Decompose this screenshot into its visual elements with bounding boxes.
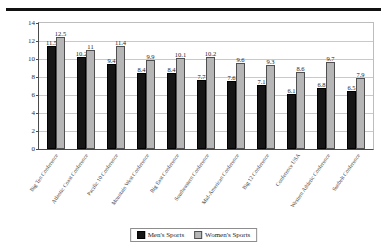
- x-axis-label-slot: Big 12 Conference: [251, 152, 281, 232]
- x-axis-label-slot: Western Athletic Conference: [312, 152, 342, 232]
- y-axis-tick-label: 14: [28, 20, 35, 27]
- bar-value-label: 7.7: [197, 74, 205, 81]
- y-axis-tick-mark: [36, 149, 39, 150]
- bar-value-label: 8.4: [167, 67, 175, 74]
- legend-swatch-womens-sports: [194, 231, 202, 239]
- bar-group: 9.411.4: [101, 23, 131, 149]
- bar-womens-sports: 10.1: [176, 58, 185, 149]
- x-axis-label-slot: Sunbelt Conference: [342, 152, 372, 232]
- bar-value-label: 11: [87, 44, 93, 51]
- bar-womens-sports: 9.6: [236, 63, 245, 149]
- bar-mens-sports: 9.4: [107, 64, 116, 149]
- bar-group: 7.69.6: [221, 23, 251, 149]
- bar-value-label: 7.9: [356, 72, 364, 79]
- chart-legend: Men's Sports Women's Sports: [130, 228, 258, 242]
- bar-group: 6.57.9: [341, 23, 371, 149]
- bar-value-label: 7.1: [257, 79, 265, 86]
- bar-value-label: 10.2: [205, 51, 216, 58]
- y-axis-tick-label: 2: [32, 128, 36, 135]
- bar-womens-sports: 9.9: [146, 60, 155, 149]
- bar-chart: 02468101214 11.512.510.2119.411.48.49.98…: [0, 16, 387, 250]
- bar-group: 6.89.7: [311, 23, 341, 149]
- x-axis-label-slot: Mountain West Conference: [131, 152, 161, 232]
- bar-womens-sports: 11.4: [116, 46, 125, 149]
- bar-group: 7.710.2: [191, 23, 221, 149]
- legend-label-womens-sports: Women's Sports: [205, 232, 250, 239]
- y-axis-tick-label: 10: [28, 56, 35, 63]
- bar-womens-sports: 9.7: [326, 62, 335, 149]
- x-axis-labels: Big Ten ConferenceAtlantic Coast Confere…: [38, 152, 374, 232]
- bar-womens-sports: 7.9: [356, 78, 365, 149]
- y-axis-tick-label: 6: [32, 92, 36, 99]
- bar-value-label: 7.6: [227, 75, 235, 82]
- bar-group: 6.18.6: [281, 23, 311, 149]
- bar-mens-sports: 7.1: [257, 85, 266, 149]
- bar-group: 7.19.3: [251, 23, 281, 149]
- bar-womens-sports: 9.3: [266, 65, 275, 149]
- x-axis-tick-label: Big Ten Conference: [29, 153, 59, 193]
- bar-womens-sports: 8.6: [296, 72, 305, 149]
- bar-value-label: 9.3: [266, 59, 274, 66]
- bar-group: 8.410.1: [161, 23, 191, 149]
- legend-item-mens-sports: Men's Sports: [137, 231, 184, 239]
- bar-value-label: 6.1: [287, 88, 295, 95]
- x-axis-label-slot: Conference USA: [282, 152, 312, 232]
- bar-mens-sports: 10.2: [77, 57, 86, 149]
- bar-value-label: 8.4: [137, 67, 145, 74]
- x-axis-label-slot: Mid-American Conference: [221, 152, 251, 232]
- bar-value-label: 6.8: [317, 82, 325, 89]
- bar-value-label: 11.4: [115, 40, 126, 47]
- legend-swatch-mens-sports: [137, 231, 145, 239]
- bar-value-label: 12.5: [55, 31, 66, 38]
- bar-mens-sports: 8.4: [137, 73, 146, 149]
- y-axis-tick-label: 4: [32, 110, 36, 117]
- bar-mens-sports: 7.6: [227, 81, 236, 149]
- bar-mens-sports: 6.8: [317, 88, 326, 149]
- y-axis-tick-label: 0: [32, 146, 36, 153]
- bar-womens-sports: 11: [86, 50, 95, 149]
- bar-mens-sports: 6.5: [347, 91, 356, 150]
- bar-group: 11.512.5: [41, 23, 71, 149]
- bar-mens-sports: 11.5: [47, 46, 56, 150]
- bar-womens-sports: 10.2: [206, 57, 215, 149]
- bar-mens-sports: 8.4: [167, 73, 176, 149]
- bar-value-label: 10.1: [175, 52, 186, 59]
- legend-item-womens-sports: Women's Sports: [194, 231, 250, 239]
- y-axis-tick-label: 12: [28, 38, 35, 45]
- bar-value-label: 8.6: [296, 66, 304, 73]
- bar-value-label: 9.7: [326, 56, 334, 63]
- bar-group: 8.49.9: [131, 23, 161, 149]
- bar-value-label: 9.9: [146, 54, 154, 61]
- bar-mens-sports: 7.7: [197, 80, 206, 149]
- plot-area: 02468101214 11.512.510.2119.411.48.49.98…: [38, 22, 374, 150]
- bar-value-label: 9.4: [107, 58, 115, 65]
- bar-mens-sports: 6.1: [287, 94, 296, 149]
- bar-groups: 11.512.510.2119.411.48.49.98.410.17.710.…: [39, 23, 373, 149]
- x-axis-label-slot: Pacific 10 Conference: [100, 152, 130, 232]
- bar-value-label: 9.6: [236, 57, 244, 64]
- bar-value-label: 6.5: [347, 85, 355, 92]
- bar-group: 10.211: [71, 23, 101, 149]
- bar-womens-sports: 12.5: [56, 37, 65, 150]
- legend-label-mens-sports: Men's Sports: [148, 232, 184, 239]
- top-divider-rule: [6, 8, 381, 11]
- y-axis-tick-label: 8: [32, 74, 36, 81]
